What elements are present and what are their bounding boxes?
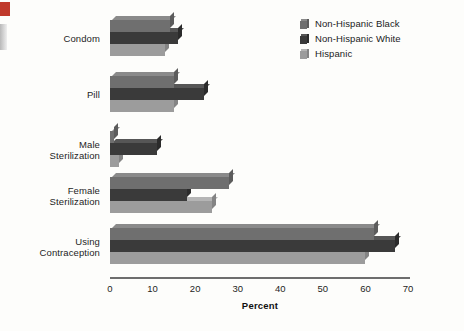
legend-swatch-icon [300,49,309,59]
category-label: MaleSterilization [8,139,100,162]
legend-label: Non-Hispanic White [315,33,401,44]
legend-swatch-icon [300,34,309,44]
x-axis-title: Percent [220,300,300,311]
bar [110,240,395,252]
category-label-line: Pill [8,89,100,101]
bar-front-face [110,201,212,213]
bar [110,155,119,167]
bar [110,177,229,189]
bar-side-face [374,220,378,236]
bar-front-face [110,240,395,252]
bar-front-face [110,100,174,112]
x-tick-label: 60 [353,283,377,294]
bar [110,201,212,213]
category-label-line: Female [8,185,100,197]
legend-label: Hispanic [315,48,352,59]
chart-container: CondomPillMaleSterilizationFemaleSterili… [0,0,464,331]
category-label-line: Sterilization [8,196,100,208]
category-label: Condom [8,33,100,45]
category-label-line: Contraception [8,247,100,259]
bar-front-face [110,76,174,88]
bar-side-face [204,80,208,96]
bar-side-face [170,12,174,28]
bar [110,32,178,44]
bar [110,131,114,143]
x-tick-label: 30 [226,283,250,294]
bar-front-face [110,228,374,240]
bar-front-face [110,88,204,100]
legend-item: Non-Hispanic Black [300,18,400,29]
bar [110,76,174,88]
bar [110,228,374,240]
bar-front-face [110,252,365,264]
category-label-line: Male [8,139,100,151]
plot-area: CondomPillMaleSterilizationFemaleSterili… [0,0,464,331]
bar-side-face [395,232,399,248]
bar-front-face [110,32,178,44]
x-tick-label: 20 [183,283,207,294]
bar [110,20,170,32]
legend-swatch-icon [300,19,309,29]
bar-side-face [229,169,233,185]
legend-item: Hispanic [300,48,352,59]
bar-side-face [212,193,216,209]
legend-item: Non-Hispanic White [300,33,401,44]
bar [110,143,157,155]
bar [110,189,187,201]
bar-front-face [110,189,187,201]
bar [110,88,204,100]
bar-front-face [110,44,165,56]
bar-front-face [110,177,229,189]
bar-front-face [110,143,157,155]
x-tick-label: 10 [141,283,165,294]
x-axis-line [110,277,410,279]
x-tick-label: 0 [98,283,122,294]
x-tick-label: 70 [396,283,420,294]
bar [110,100,174,112]
bar-front-face [110,155,119,167]
bar-side-face [178,24,182,40]
page-bottom-edge [0,321,464,331]
bar-side-face [114,123,118,139]
bar [110,44,165,56]
x-tick-label: 50 [311,283,335,294]
bar-front-face [110,20,170,32]
x-tick-label: 40 [268,283,292,294]
category-label: UsingContraception [8,236,100,259]
category-label-line: Condom [8,33,100,45]
category-label: Pill [8,89,100,101]
bar [110,252,365,264]
category-label: FemaleSterilization [8,185,100,208]
category-label-line: Sterilization [8,150,100,162]
legend-label: Non-Hispanic Black [315,18,400,29]
bar-front-face [110,131,114,143]
bar-side-face [157,135,161,151]
category-label-line: Using [8,236,100,248]
bar-side-face [174,68,178,84]
